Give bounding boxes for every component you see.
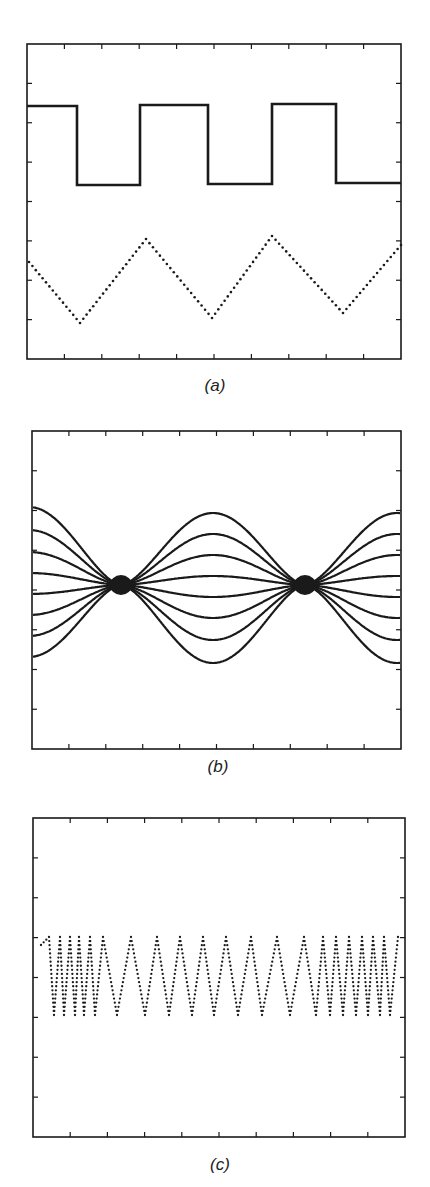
- sampled-signal-dot: [67, 965, 69, 967]
- sampled-signal-dot: [209, 989, 211, 991]
- sampled-signal-dot: [266, 989, 268, 991]
- sampled-signal-dot: [172, 981, 174, 983]
- triangle-wave-dot: [249, 265, 252, 268]
- triangle-wave-dot: [172, 271, 175, 274]
- panel-b-caption-text: (b): [208, 757, 229, 776]
- sampled-signal-dot: [322, 940, 324, 942]
- sampled-signal-dot: [91, 969, 93, 971]
- sampled-signal-dot: [53, 1006, 55, 1008]
- sampled-signal-dot: [377, 997, 379, 999]
- sampled-signal-dot: [80, 965, 82, 967]
- triangle-wave-dot: [65, 305, 68, 308]
- sampled-signal-dot: [252, 952, 254, 954]
- sampled-signal-dot: [361, 944, 363, 946]
- sampled-signal-dot: [219, 977, 221, 979]
- sampled-signal-dot: [202, 936, 204, 938]
- sampled-signal-dot: [220, 965, 222, 967]
- sampled-signal-dot: [380, 993, 382, 995]
- sampled-signal-dot: [334, 952, 336, 954]
- sampled-signal-dot: [71, 965, 73, 967]
- sampled-signal-dot: [49, 948, 51, 950]
- sampled-signal-dot: [81, 989, 83, 991]
- panel-c-plot: [33, 818, 405, 1137]
- sampled-signal-dot: [299, 956, 301, 958]
- sampled-signal-dot: [311, 989, 313, 991]
- triangle-wave-dot: [135, 250, 138, 253]
- sampled-signal-dot: [379, 1002, 381, 1004]
- sampled-signal-dot: [384, 948, 386, 950]
- triangle-wave-dot: [306, 273, 309, 276]
- sampled-signal-dot: [146, 1002, 148, 1004]
- sampled-signal-dot: [57, 960, 59, 962]
- triangle-wave-dot: [28, 261, 31, 264]
- sampled-signal-dot: [56, 969, 58, 971]
- sampled-signal-dot: [79, 960, 81, 962]
- triangle-wave-dot: [141, 242, 144, 245]
- sampled-signal-dot: [357, 981, 359, 983]
- sampled-signal-dot: [57, 956, 59, 958]
- triangle-wave-dot: [362, 288, 365, 291]
- sampled-signal-dot: [326, 985, 328, 987]
- sampled-signal-dot: [386, 973, 388, 975]
- sampled-signal-dot: [363, 960, 365, 962]
- sampled-signal-dot: [330, 993, 332, 995]
- sampled-signal-dot: [75, 997, 77, 999]
- sampled-signal-dot: [105, 952, 107, 954]
- sampled-signal-dot: [380, 985, 382, 987]
- sampled-signal-dot: [63, 1010, 65, 1012]
- sampled-signal-dot: [58, 952, 60, 954]
- triangle-wave-dot: [99, 297, 102, 300]
- triangle-wave-dot: [148, 242, 151, 245]
- sampled-signal-dot: [65, 985, 67, 987]
- sampled-signal-dot: [262, 1010, 264, 1012]
- sampled-signal-dot: [214, 1006, 216, 1008]
- sampled-signal-dot: [76, 981, 78, 983]
- sampled-signal-dot: [385, 965, 387, 967]
- sampled-signal-dot: [69, 940, 71, 942]
- sampled-signal-dot: [171, 993, 173, 995]
- sampled-signal-dot: [324, 956, 326, 958]
- sampled-signal-dot: [335, 940, 337, 942]
- sampled-signal-dot: [387, 993, 389, 995]
- triangle-wave-dot: [75, 318, 78, 321]
- sampled-signal-dot: [197, 973, 199, 975]
- sampled-signal-dot: [292, 997, 294, 999]
- sampled-signal-dot: [111, 985, 113, 987]
- sampled-signal-dot: [319, 973, 321, 975]
- triangle-wave-dot: [239, 278, 242, 281]
- sampled-signal-dot: [72, 981, 74, 983]
- sampled-signal-dot: [374, 956, 376, 958]
- sampled-signal-dot: [369, 981, 371, 983]
- sampled-signal-dot: [85, 985, 87, 987]
- sampled-signal-dot: [192, 1006, 194, 1008]
- sampled-signal-dot: [367, 1014, 369, 1016]
- sampled-signal-dot: [150, 973, 152, 975]
- sampled-signal-dot: [160, 960, 162, 962]
- sampled-signal-dot: [329, 1010, 331, 1012]
- panel-a-frame: [27, 44, 401, 359]
- sampled-signal-dot: [371, 952, 373, 954]
- triangle-wave-dot: [366, 284, 369, 287]
- sampled-signal-dot: [149, 981, 151, 983]
- sampled-signal-dot: [346, 960, 348, 962]
- sampled-signal-dot: [134, 956, 136, 958]
- sampled-signal-dot: [117, 1006, 119, 1008]
- sampled-signal-dot: [195, 981, 197, 983]
- sampled-signal-dot: [156, 936, 158, 938]
- sampled-signal-dot: [189, 1002, 191, 1004]
- sampled-signal-dot: [222, 956, 224, 958]
- sampled-signal-dot: [254, 969, 256, 971]
- sampled-signal-dot: [45, 939, 47, 941]
- sampled-signal-dot: [339, 977, 341, 979]
- triangle-wave-dot: [41, 277, 44, 280]
- sampled-signal-dot: [273, 948, 275, 950]
- sampled-signal-dot: [322, 936, 324, 938]
- sampled-signal-dot: [92, 985, 94, 987]
- sampled-signal-dot: [384, 956, 386, 958]
- sampled-signal-dot: [86, 973, 88, 975]
- sampled-signal-dot: [167, 1006, 169, 1008]
- sampled-signal-dot: [234, 993, 236, 995]
- sampled-signal-dot: [365, 985, 367, 987]
- sampled-signal-dot: [327, 997, 329, 999]
- sampled-signal-dot: [213, 1010, 215, 1012]
